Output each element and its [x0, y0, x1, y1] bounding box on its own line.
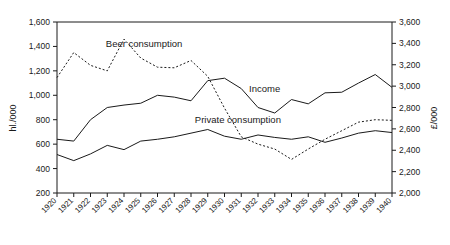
right-tick-label: 2,000: [399, 188, 421, 198]
left-tick-label: 1,000: [29, 90, 51, 100]
right-tick-label: 3,400: [399, 38, 421, 48]
right-tick-label: 2,200: [399, 167, 421, 177]
right-tick-label: 3,000: [399, 81, 421, 91]
series-label: Income: [249, 83, 280, 94]
right-tick-label: 2,800: [399, 103, 421, 113]
left-axis-title: hl./000: [8, 104, 18, 131]
chart-container: 2004006008001,0001,2001,4001,600 2,0002,…: [0, 0, 450, 245]
line-chart: 2004006008001,0001,2001,4001,600 2,0002,…: [0, 0, 450, 245]
series-label: Beer consumption: [106, 38, 183, 49]
left-tick-label: 800: [36, 115, 50, 125]
right-tick-label: 3,200: [399, 60, 421, 70]
left-tick-label: 1,600: [29, 17, 51, 27]
left-tick-label: 1,400: [29, 41, 51, 51]
left-tick-label: 400: [36, 164, 50, 174]
series-label: Private consumption: [195, 114, 281, 125]
right-tick-label: 2,400: [399, 145, 421, 155]
right-tick-label: 3,600: [399, 17, 421, 27]
right-axis-title: £/000: [429, 107, 439, 130]
left-tick-label: 1,200: [29, 66, 51, 76]
left-tick-label: 200: [36, 188, 50, 198]
right-tick-label: 2,600: [399, 124, 421, 134]
left-tick-label: 600: [36, 139, 50, 149]
